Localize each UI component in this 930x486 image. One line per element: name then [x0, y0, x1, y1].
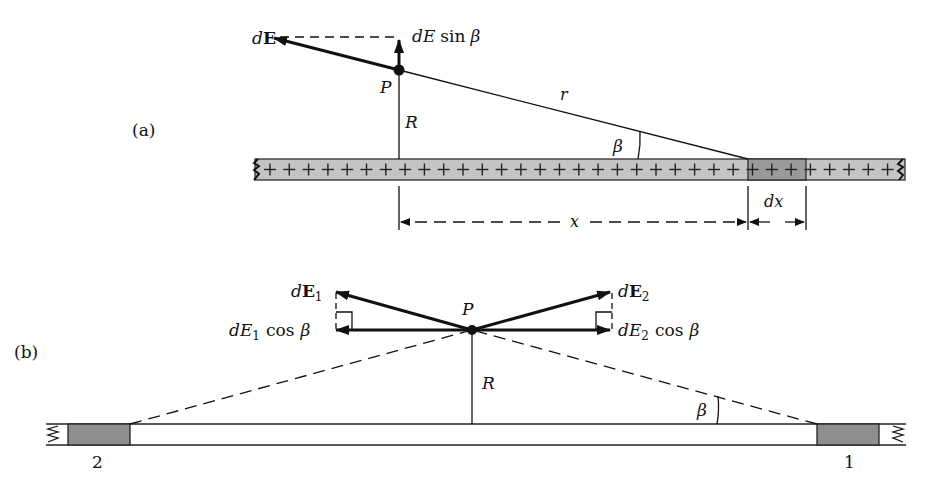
point-P-label: P — [379, 77, 392, 97]
angle-beta-label-b: β — [696, 400, 707, 420]
dx-label: dx — [764, 192, 783, 211]
point-P — [394, 65, 405, 76]
angle-beta-arc — [638, 131, 640, 159]
figure-canvas: (a) R r β P dE dEsinβ — [0, 0, 930, 486]
x-label: x — [570, 212, 579, 231]
dashed-line-to-element-1 — [472, 330, 817, 424]
distance-r-line — [399, 70, 748, 159]
distance-R-label-b: R — [481, 373, 495, 393]
dE-vector-arrow — [274, 38, 399, 70]
panel-b: (b) 2 1 R β P dE1 dE1cos — [14, 281, 906, 472]
element-1 — [817, 424, 879, 445]
dE2-label: dE2 — [618, 281, 650, 304]
rod-b-break-left-icon — [48, 426, 58, 442]
panel-a: (a) R r β P dE dEsinβ — [132, 26, 905, 231]
dE2-cos-beta-label: dE2cosβ — [618, 320, 699, 343]
element-2-label: 2 — [92, 452, 103, 472]
dE2-vector-arrow — [472, 292, 610, 330]
panel-b-label: (b) — [14, 342, 38, 362]
rod-b — [68, 424, 906, 445]
right-angle-mark-1 — [336, 312, 352, 330]
dE1-vector-arrow — [336, 292, 472, 330]
angle-beta-label: β — [612, 136, 623, 156]
distance-r-label: r — [560, 85, 569, 104]
distance-R-label: R — [404, 112, 418, 132]
element-2 — [68, 424, 130, 445]
right-angle-mark-2 — [596, 312, 612, 330]
dE1-cos-beta-label: dE1cosβ — [229, 320, 310, 343]
dE-sin-beta-label: dEsinβ — [412, 26, 480, 46]
element-1-label: 1 — [844, 452, 855, 472]
dashed-line-to-element-2 — [130, 330, 472, 424]
point-P-label-b: P — [461, 299, 474, 319]
dE-vector-label: dE — [252, 28, 276, 48]
panel-a-label: (a) — [132, 120, 155, 140]
dE1-label: dE1 — [291, 281, 323, 304]
angle-beta-arc-b — [717, 396, 719, 424]
point-P-b — [467, 325, 477, 335]
